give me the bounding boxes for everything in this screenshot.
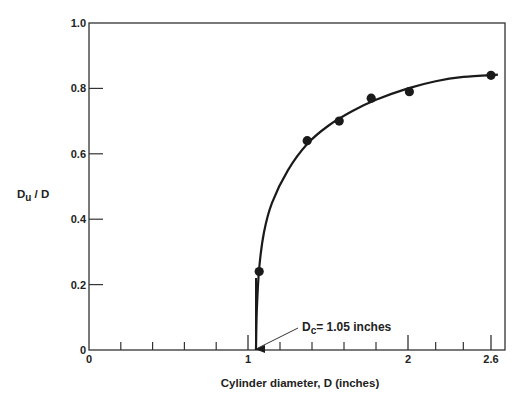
y-axis: 00.20.40.60.81.0 <box>71 17 103 356</box>
y-tick-label: 0.2 <box>71 279 86 291</box>
y-tick-label: 0.4 <box>71 213 87 225</box>
data-point <box>255 267 264 276</box>
data-point <box>335 117 344 126</box>
data-point <box>405 87 414 96</box>
data-point <box>303 136 312 145</box>
y-tick-label: 1.0 <box>71 17 86 29</box>
data-points <box>255 71 496 276</box>
x-tick-label: 0 <box>86 353 92 365</box>
plot-frame <box>89 23 505 350</box>
x-tick-label: 2.6 <box>483 353 498 365</box>
y-tick-label: 0.6 <box>71 148 86 160</box>
fitted-curve <box>256 75 498 350</box>
x-tick-label: 2 <box>405 353 411 365</box>
x-tick-label: 1 <box>245 353 251 365</box>
y-axis-title: Du / D <box>17 188 49 203</box>
data-point <box>367 94 376 103</box>
critical-diameter-annotation: Dc= 1.05 inches <box>256 278 392 349</box>
annotation-label: Dc= 1.05 inches <box>302 320 392 336</box>
x-axis-title: Cylinder diameter, D (inches) <box>221 377 380 389</box>
data-point <box>486 71 495 80</box>
chart: 00.20.40.60.81.0 0122.6 Dc= 1.05 inches … <box>0 0 525 406</box>
y-tick-label: 0.8 <box>71 82 86 94</box>
